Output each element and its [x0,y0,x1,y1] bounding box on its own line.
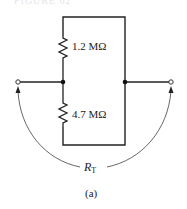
junction-dot-left [61,80,66,85]
resistor-r2-label: 4.7 MΩ [72,109,106,120]
right-terminal-icon [169,80,173,84]
resistor-r2-icon [59,82,67,127]
arrow-up-left-icon [16,86,21,93]
circuit-diagram: FIGURE 62 1.2 MΩ 4.7 MΩ RT (a) [0,0,187,209]
schematic [0,0,187,209]
total-resistance-label: RT [82,161,98,175]
resistor-r1-icon [59,36,67,82]
figure-caption-top: FIGURE 62 [14,0,72,6]
rt-arc-left [18,91,80,167]
junction-dot-right [123,80,128,85]
rt-subscript: T [91,166,96,175]
rt-arc-right [107,91,171,167]
arrow-up-right-icon [169,86,174,93]
wire-top [63,17,125,145]
left-terminal-icon [16,80,20,84]
resistor-r1-label: 1.2 MΩ [72,41,106,52]
figure-sublabel: (a) [85,188,97,199]
